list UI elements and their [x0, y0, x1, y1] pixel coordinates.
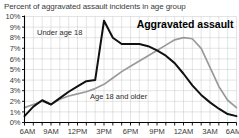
- y-axis-tick-label: 1%: [10, 108, 21, 117]
- x-axis-tick-label: 6AM: [20, 127, 35, 136]
- series-label: Age 18 and older: [90, 92, 148, 101]
- y-axis-tick-labels: 0%1%2%3%4%5%6%7%8%9%10%: [5, 12, 20, 127]
- chart-container: Percent of aggravated assault incidents …: [0, 0, 239, 138]
- annotation-title-text: Aggravated assault: [137, 18, 234, 30]
- y-axis-tick-label: 4%: [10, 76, 21, 85]
- chart-plot-area: 0%1%2%3%4%5%6%7%8%9%10% 6AM9AM12PM3PM6PM…: [0, 0, 239, 138]
- y-axis-tick-label: 6%: [10, 55, 21, 64]
- series-label: Under age 18: [37, 28, 82, 37]
- x-axis-tick-label: 6PM: [123, 127, 138, 136]
- x-axis-tick-label: 9PM: [149, 127, 164, 136]
- x-axis-tick-label: 9AM: [43, 127, 58, 136]
- x-axis-tick-label: 6AM: [226, 127, 239, 136]
- x-axis-tick-label: 3AM: [202, 127, 217, 136]
- x-axis-tick-label: 12AM: [174, 127, 194, 136]
- chart-annotation-title: Aggravated assault: [137, 18, 234, 30]
- x-axis-tick-label: 12PM: [68, 127, 88, 136]
- y-axis-tick-label: 2%: [10, 97, 21, 106]
- y-axis-tick-label: 3%: [10, 86, 21, 95]
- x-axis-tick-label: 3PM: [96, 127, 111, 136]
- y-axis-tick-label: 5%: [10, 65, 21, 74]
- x-axis-tick-labels: 6AM9AM12PM3PM6PM9PM12AM3AM6AM: [20, 127, 239, 136]
- y-axis-tick-label: 8%: [10, 33, 21, 42]
- y-axis-tick-label: 9%: [10, 23, 21, 32]
- y-axis-tick-label: 7%: [10, 44, 21, 53]
- y-axis-tick-label: 10%: [5, 12, 20, 21]
